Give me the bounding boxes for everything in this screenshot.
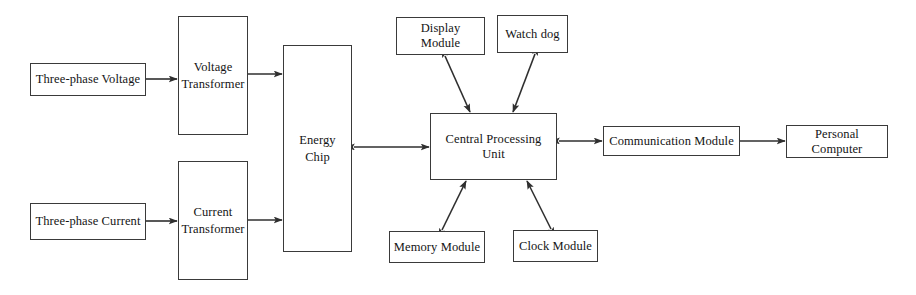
node-label: Communication Module — [609, 134, 734, 149]
connector-cpu-to-watchdog — [513, 54, 535, 112]
node-three-phase-current[interactable]: Three-phase Current — [30, 203, 146, 240]
node-label: Three-phase Current — [36, 214, 141, 229]
node-display-module[interactable]: Display Module — [396, 17, 485, 55]
node-label: Display Module — [400, 21, 481, 51]
node-communication-module[interactable]: Communication Module — [603, 126, 740, 156]
node-personal-computer[interactable]: Personal Computer — [786, 125, 888, 158]
node-label: Memory Module — [394, 240, 480, 255]
node-label: Current Transformer — [181, 204, 244, 237]
node-label: Watch dog — [505, 27, 559, 42]
connector-cpu-to-memory — [442, 181, 466, 230]
connector-cpu-to-clock — [527, 181, 551, 229]
connector-cpu-to-display — [445, 56, 470, 112]
node-label: Central Processing Unit — [434, 132, 553, 162]
node-memory-module[interactable]: Memory Module — [389, 231, 485, 263]
node-label: Three-phase Voltage — [36, 72, 141, 87]
block-diagram: Three-phase Voltage Voltage Transformer … — [0, 0, 916, 295]
node-label: Energy Chip — [299, 132, 335, 165]
node-watch-dog[interactable]: Watch dog — [497, 15, 568, 53]
node-clock-module[interactable]: Clock Module — [513, 230, 598, 262]
node-current-transformer[interactable]: Current Transformer — [178, 161, 248, 280]
node-energy-chip[interactable]: Energy Chip — [283, 45, 352, 252]
node-label: Personal Computer — [790, 127, 884, 157]
node-label: Clock Module — [519, 239, 592, 254]
node-three-phase-voltage[interactable]: Three-phase Voltage — [30, 63, 146, 96]
node-label: Voltage Transformer — [181, 59, 244, 92]
node-voltage-transformer[interactable]: Voltage Transformer — [178, 16, 248, 135]
node-central-processing-unit[interactable]: Central Processing Unit — [430, 113, 557, 180]
